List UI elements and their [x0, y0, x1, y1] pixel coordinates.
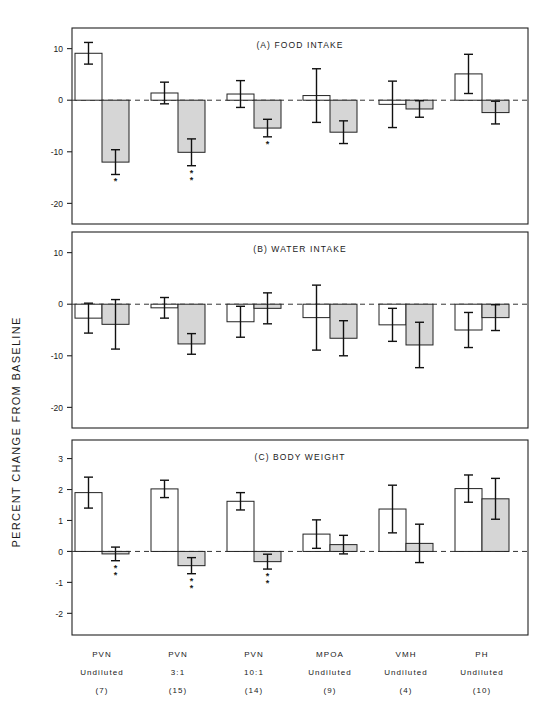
x-group-label-3: MPOAUndiluted(9): [308, 650, 352, 695]
panel-b: 100-10-20(B) WATER INTAKE: [51, 232, 528, 428]
panel-frame: [72, 28, 528, 224]
panel-title-c: (C) BODY WEIGHT: [255, 452, 346, 462]
x-group-label-2: PVN10:1(14): [244, 650, 264, 695]
x-group-site: VMH: [395, 650, 416, 659]
y-tick-label-0: 0: [58, 95, 63, 105]
y-tick-label-0: 0: [58, 299, 63, 309]
x-group-dilution: Undiluted: [460, 668, 504, 677]
y-tick-label-1: 1: [58, 516, 63, 526]
x-group-n: (9): [323, 686, 336, 695]
y-tick-label-neg20: -20: [51, 199, 64, 209]
x-group-label-5: PHUndiluted(10): [460, 650, 504, 695]
y-tick-label-3: 3: [58, 454, 63, 464]
y-tick-label-10: 10: [54, 248, 64, 258]
significance-asterisk: *: [190, 175, 194, 185]
x-group-label-1: PVN3:1(15): [168, 650, 188, 695]
bar-c-1-open[interactable]: [151, 489, 178, 552]
significance-asterisk: *: [114, 176, 118, 186]
x-group-label-0: PVNUndiluted(7): [80, 650, 124, 695]
panel-title-a: (A) FOOD INTAKE: [256, 40, 343, 50]
x-group-dilution: 10:1: [244, 668, 264, 677]
x-group-dilution: Undiluted: [384, 668, 428, 677]
x-group-site: MPOA: [316, 650, 344, 659]
y-tick-label-0: 0: [58, 547, 63, 557]
x-group-site: PVN: [244, 650, 264, 659]
y-tick-label-neg2: -2: [55, 609, 63, 619]
x-group-dilution: 3:1: [171, 668, 185, 677]
x-group-n: (15): [169, 686, 188, 695]
figure-container: 100-10-20(A) FOOD INTAKE****100-10-20(B)…: [0, 0, 541, 709]
x-group-site: PVN: [168, 650, 188, 659]
x-group-n: (14): [245, 686, 264, 695]
panel-c: 3210-1-2(C) BODY WEIGHT******: [55, 440, 528, 635]
significance-asterisk: *: [114, 570, 118, 580]
significance-asterisk: *: [266, 139, 270, 149]
x-group-dilution: Undiluted: [308, 668, 352, 677]
significance-asterisk: *: [266, 578, 270, 588]
y-tick-label-2: 2: [58, 485, 63, 495]
x-group-n: (4): [399, 686, 412, 695]
significance-asterisk: *: [190, 583, 194, 593]
y-tick-label-neg20: -20: [51, 403, 64, 413]
panel-a: 100-10-20(A) FOOD INTAKE****: [51, 28, 528, 224]
y-axis-title: PERCENT CHANGE FROM BASELINE: [10, 316, 22, 547]
y-tick-label-10: 10: [54, 44, 64, 54]
x-group-n: (10): [473, 686, 492, 695]
x-group-label-4: VMHUndiluted(4): [384, 650, 428, 695]
y-tick-label-neg10: -10: [51, 351, 64, 361]
y-tick-label-neg1: -1: [55, 578, 63, 588]
x-group-site: PVN: [92, 650, 112, 659]
x-group-dilution: Undiluted: [80, 668, 124, 677]
panel-title-b: (B) WATER INTAKE: [253, 244, 346, 254]
multi-panel-bar-chart: 100-10-20(A) FOOD INTAKE****100-10-20(B)…: [0, 0, 541, 709]
x-group-n: (7): [95, 686, 108, 695]
x-group-site: PH: [475, 650, 488, 659]
y-tick-label-neg10: -10: [51, 147, 64, 157]
